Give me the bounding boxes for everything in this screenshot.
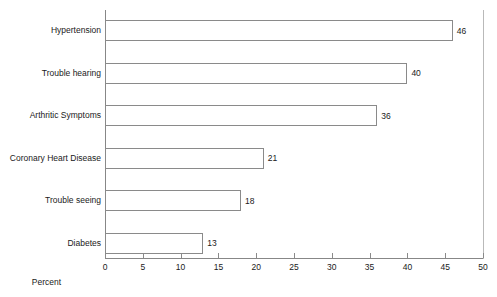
x-axis-tick-mark [483, 253, 484, 258]
bar [105, 105, 377, 126]
bar-value-label: 21 [268, 154, 277, 163]
y-axis-line [105, 10, 106, 259]
x-axis-tick-mark [332, 253, 333, 258]
bar [105, 148, 264, 169]
category-label: Coronary Heart Disease [0, 154, 101, 163]
x-axis-tick-mark [445, 253, 446, 258]
bar-row: 46 [105, 20, 483, 41]
category-label: Hypertension [0, 26, 101, 35]
bar-row: 36 [105, 105, 483, 126]
horizontal-bar-chart: 464036211813 HypertensionTrouble hearing… [0, 0, 497, 297]
bar [105, 190, 241, 211]
x-axis-tick-label: 25 [289, 263, 298, 272]
right-spine-line [483, 10, 484, 259]
x-axis-tick-mark [370, 253, 371, 258]
x-axis-title: Percent [0, 278, 497, 287]
category-label: Diabetes [0, 239, 101, 248]
bar-value-label: 18 [245, 196, 254, 205]
x-axis-tick-mark [181, 253, 182, 258]
bar-row: 13 [105, 233, 483, 254]
x-axis-tick-label: 40 [403, 263, 412, 272]
x-axis-tick-mark [294, 253, 295, 258]
x-axis-tick-mark [218, 253, 219, 258]
bar-value-label: 40 [411, 69, 420, 78]
bar-value-label: 36 [381, 111, 390, 120]
x-axis-tick-mark [256, 253, 257, 258]
x-axis-tick-label: 5 [140, 263, 145, 272]
category-label: Trouble seeing [0, 196, 101, 205]
bar-row: 21 [105, 148, 483, 169]
x-axis-tick-label: 0 [103, 263, 108, 272]
x-axis-tick-mark [143, 253, 144, 258]
bar-value-label: 13 [207, 239, 216, 248]
bar-value-label: 46 [457, 26, 466, 35]
bar-row: 18 [105, 190, 483, 211]
bar [105, 233, 203, 254]
x-axis-tick-label: 20 [251, 263, 260, 272]
bar [105, 63, 407, 84]
x-axis-line [105, 258, 484, 259]
x-axis-title-text: Percent [32, 277, 61, 287]
category-label: Trouble hearing [0, 69, 101, 78]
x-axis-tick-label: 35 [365, 263, 374, 272]
bar [105, 20, 453, 41]
x-axis-tick-mark [105, 253, 106, 258]
category-label: Arthritic Symptoms [0, 111, 101, 120]
x-axis-tick-label: 10 [176, 263, 185, 272]
bar-row: 40 [105, 63, 483, 84]
x-axis-tick-label: 30 [327, 263, 336, 272]
x-axis-tick-label: 45 [440, 263, 449, 272]
x-axis-tick-label: 50 [478, 263, 487, 272]
x-axis-tick-mark [407, 253, 408, 258]
x-axis-tick-label: 15 [214, 263, 223, 272]
